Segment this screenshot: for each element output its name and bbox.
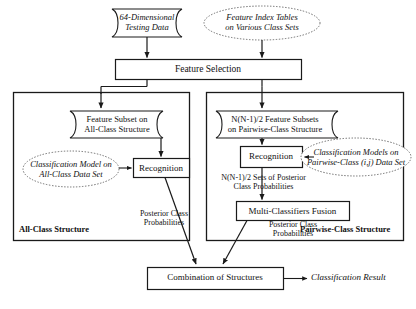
flowchart-diagram: 64-Dimensional Testing Data Feature Inde… [0, 0, 416, 309]
panel-all-class-label: All-Class Structure [19, 225, 129, 235]
panel-pairwise-class-label: Pairwise-Class Structure [300, 225, 406, 235]
node-classification-model-all-class-label: Classification Model on All-Class Data S… [21, 160, 121, 179]
node-classification-result-label: Classification Result [311, 272, 411, 282]
node-recognition-left-label: Recognition [133, 163, 189, 173]
node-feature-index-tables-label: Feature Index Tables on Various Class Se… [204, 13, 320, 32]
node-feature-selection-label: Feature Selection [115, 64, 301, 75]
node-feature-subset-all-class-label: Feature Subset on All-Class Structure [73, 115, 161, 134]
node-recognition-right-label: Recognition [240, 151, 302, 161]
edge-label-posterior-sets-right: N(N-1)/2 Sets of Posterior Class Probabi… [212, 174, 315, 192]
node-testing-data-label: 64-Dimensional Testing Data [112, 13, 182, 32]
node-combination-of-structures-label: Combination of Structures [147, 272, 283, 282]
edge-label-posterior-left: Posterior Class Probabilities [123, 210, 205, 228]
node-multi-classifiers-fusion-label: Multi-Classifiers Fusion [236, 206, 349, 216]
node-feature-subsets-pairwise-label: N(N-1)/2 Feature Subsets on Pairwise-Cla… [216, 115, 334, 134]
node-classification-models-pairwise-label: Classification Models on Pairwise-Class … [303, 148, 409, 167]
